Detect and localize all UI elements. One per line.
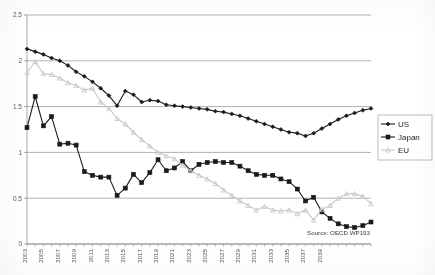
data-point-square — [303, 199, 307, 203]
data-point-square — [115, 193, 119, 197]
legend-label: EU — [398, 146, 409, 155]
data-point-square — [74, 143, 78, 147]
data-point-square — [156, 158, 160, 162]
x-axis-label: 2029 — [234, 248, 241, 262]
data-point-diamond — [344, 114, 348, 118]
data-point-square — [25, 126, 29, 130]
x-axis-label: 2007 — [54, 248, 61, 262]
data-point-square — [107, 175, 111, 179]
data-point-square — [263, 173, 267, 177]
data-point-square — [344, 225, 348, 229]
data-point-square — [279, 177, 283, 181]
x-axis-label: 2031 — [250, 248, 257, 262]
data-point-square — [205, 160, 209, 164]
data-point-diamond — [164, 103, 168, 107]
data-point-square — [246, 169, 250, 173]
data-point-square — [58, 142, 62, 146]
y-axis-label: 1.5 — [13, 103, 22, 110]
data-point-diamond — [303, 134, 307, 138]
data-point-diamond — [33, 50, 37, 54]
x-axis-label: 2037 — [299, 248, 306, 262]
data-series — [25, 47, 374, 230]
data-point-diamond — [295, 131, 299, 135]
chart-legend: USJapanEU — [378, 115, 432, 160]
data-point-square — [99, 175, 103, 179]
data-point-diamond — [25, 47, 29, 51]
data-point-diamond — [41, 52, 45, 56]
data-point-diamond — [230, 112, 234, 116]
data-point-diamond — [271, 125, 275, 129]
y-axis-label: 2.5 — [13, 11, 22, 18]
data-point-square — [230, 160, 234, 164]
data-point-square — [148, 171, 152, 175]
data-point-diamond — [369, 106, 373, 110]
data-point-square — [197, 162, 201, 166]
legend-label: Japan — [398, 133, 420, 142]
data-point-diamond — [238, 114, 242, 118]
y-axis-label: 0.5 — [13, 195, 22, 202]
series-line — [27, 62, 371, 220]
data-point-diamond — [246, 117, 250, 121]
data-point-square — [91, 173, 95, 177]
data-point-diamond — [50, 56, 54, 60]
series-eu — [25, 59, 374, 222]
data-point-square — [295, 187, 299, 191]
data-point-diamond — [181, 105, 185, 109]
x-axis-label: 2027 — [218, 248, 225, 262]
data-point-square — [50, 115, 54, 119]
x-axis-label: 2017 — [136, 248, 143, 262]
x-axis-label: 2005 — [37, 248, 44, 262]
x-axis-label: 2039 — [316, 248, 323, 262]
data-point-square — [254, 172, 258, 176]
data-point-diamond — [205, 107, 209, 111]
data-point-diamond — [222, 110, 226, 114]
x-axis-label: 2015 — [119, 248, 126, 262]
data-point-diamond — [172, 104, 176, 108]
data-point-square — [123, 186, 127, 190]
data-point-square — [82, 170, 86, 174]
x-axis-label: 2019 — [152, 248, 159, 262]
data-point-square — [336, 222, 340, 226]
x-axis-label: 2013 — [103, 248, 110, 262]
data-point-square — [271, 173, 275, 177]
data-point-square — [131, 172, 135, 176]
data-point-square — [386, 135, 390, 139]
data-point-square — [33, 95, 37, 99]
data-point-square — [41, 124, 45, 128]
x-axis-label: 2011 — [87, 248, 94, 262]
data-point-square — [369, 220, 373, 224]
data-point-diamond — [197, 106, 201, 110]
x-axis-label: 2003 — [21, 248, 28, 262]
data-point-diamond — [263, 122, 267, 126]
data-point-diamond — [148, 98, 152, 102]
x-axis-labels: 2003200520072009201120132015201720192021… — [21, 248, 323, 262]
data-point-diamond — [361, 108, 365, 112]
x-axis-label: 2009 — [70, 248, 77, 262]
data-point-square — [66, 141, 70, 145]
data-point-diamond — [213, 109, 217, 113]
x-axis-label: 2021 — [168, 248, 175, 262]
y-axis-label: 2 — [18, 57, 22, 64]
data-point-square — [238, 164, 242, 168]
data-point-diamond — [353, 111, 357, 115]
data-point-diamond — [254, 119, 258, 123]
line-chart: 00.511.522.5 200320052007200920112013201… — [0, 0, 435, 275]
data-point-square — [172, 166, 176, 170]
x-axis-label: 2035 — [283, 248, 290, 262]
source-text: Source: OECD WP193 — [307, 229, 370, 236]
x-axis-label: 2023 — [185, 248, 192, 262]
y-axis-label: 1 — [18, 149, 22, 156]
y-axis-label: 0 — [18, 240, 22, 247]
data-point-square — [213, 160, 217, 164]
data-point-square — [328, 216, 332, 220]
x-axis-label: 2033 — [267, 248, 274, 262]
source-annotation: Source: OECD WP193 — [307, 229, 370, 236]
data-point-square — [312, 195, 316, 199]
chart-container: 00.511.522.5 200320052007200920112013201… — [0, 0, 435, 275]
data-point-diamond — [279, 128, 283, 132]
data-point-diamond — [287, 130, 291, 134]
series-line — [27, 49, 371, 136]
data-point-square — [140, 181, 144, 185]
data-point-diamond — [156, 99, 160, 103]
data-point-square — [222, 160, 226, 164]
